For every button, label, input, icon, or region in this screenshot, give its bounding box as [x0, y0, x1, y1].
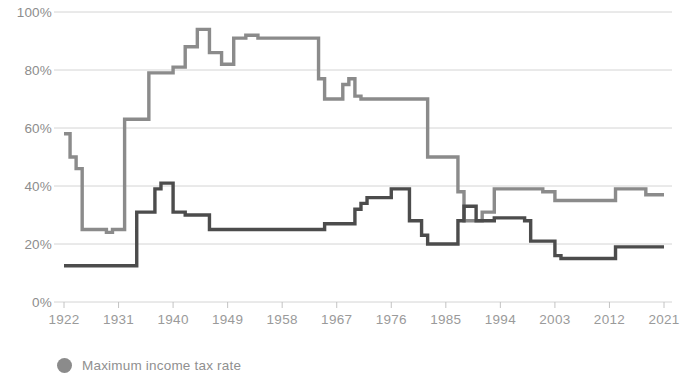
series-line-2 [64, 183, 664, 266]
legend-item-label: Maximum income tax rate [82, 358, 241, 373]
y-axis-tick-label: 40% [4, 180, 52, 194]
x-axis-tick-label: 1994 [485, 313, 516, 327]
y-axis-tick-label: 20% [4, 238, 52, 252]
series-lines-group [64, 29, 664, 265]
x-axis-tick-label: 1940 [157, 313, 188, 327]
x-axis-tick-label: 2003 [539, 313, 570, 327]
x-axis-tick-label: 2012 [594, 313, 625, 327]
x-axis-tick-label: 1931 [103, 313, 134, 327]
y-axis-tick-label: 0% [4, 296, 52, 310]
y-axis-tick-label: 80% [4, 64, 52, 78]
chart-legend: Maximum income tax rate [57, 358, 241, 373]
x-axis-tick-label: 1976 [376, 313, 407, 327]
legend-color-swatch-icon [57, 358, 72, 373]
x-axis-tick-label: 1949 [212, 313, 243, 327]
x-axis-tick-label: 1922 [48, 313, 79, 327]
x-axis-tick-label: 2021 [648, 313, 679, 327]
y-axis-tick-label: 60% [4, 122, 52, 136]
y-axis-tick-label: 100% [4, 6, 52, 20]
x-axis-ticks-group [64, 302, 664, 308]
y-axis-labels: 100% 80% 60% 40% 20% 0% [0, 0, 52, 382]
x-axis-tick-label: 1967 [321, 313, 352, 327]
chart-container: 100% 80% 60% 40% 20% 0% 1922193119401949… [0, 0, 681, 382]
x-axis-tick-label: 1985 [430, 313, 461, 327]
x-axis-tick-label: 1958 [267, 313, 298, 327]
